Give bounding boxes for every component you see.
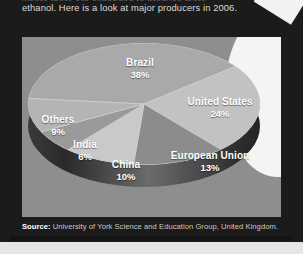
pie-label-european-union: European Union 13%: [164, 151, 256, 172]
pie-label-brazil-name: Brazil: [108, 58, 172, 69]
pie-label-brazil-value: 38%: [108, 70, 172, 80]
pie-label-european-union-name: European Union: [164, 151, 256, 162]
pie-label-others-value: 9%: [30, 127, 86, 137]
pie-label-united-states: United States 24%: [179, 97, 261, 118]
pie-label-united-states-value: 24%: [179, 109, 261, 119]
pie-label-india-value: 6%: [62, 152, 108, 162]
pie-chart: Brazil 38% United States 24% European Un…: [22, 37, 281, 217]
page-background: where there are expanded to produce more…: [0, 0, 303, 254]
article-panel: where there are expanded to produce more…: [0, 0, 303, 242]
intro-clipped-line: where there are expanded to produce more: [22, 0, 270, 1]
intro-text: ethanol. Here is a look at major produce…: [22, 2, 237, 13]
pie-label-india-name: India: [62, 140, 108, 151]
source-text: University of York Science and Education…: [51, 222, 278, 231]
pie-label-others-name: Others: [30, 115, 86, 126]
pie-label-china-value: 10%: [100, 172, 152, 182]
pie-label-brazil: Brazil 38%: [108, 58, 172, 79]
pie-label-china-name: China: [100, 160, 152, 171]
intro-paragraph: where there are expanded to produce more…: [22, 0, 270, 14]
pie-label-india: India 6%: [62, 140, 108, 161]
pie-label-china: China 10%: [100, 160, 152, 181]
pie-label-others: Others 9%: [30, 115, 86, 136]
source-label: Source:: [22, 222, 51, 231]
pie-label-european-union-value: 13%: [164, 163, 256, 173]
pie-label-united-states-name: United States: [179, 97, 261, 108]
bottom-rule: [10, 236, 293, 241]
source-line: Source: University of York Science and E…: [22, 222, 284, 231]
